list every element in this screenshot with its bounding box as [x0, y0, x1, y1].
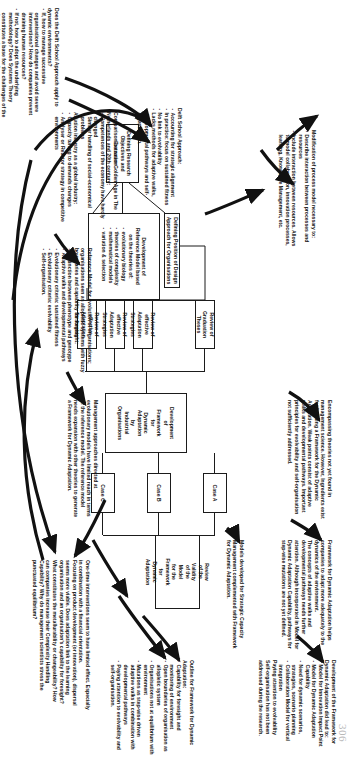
- diagram-page: 306 Definin: [0, 0, 355, 760]
- curved-arrows: [0, 0, 355, 760]
